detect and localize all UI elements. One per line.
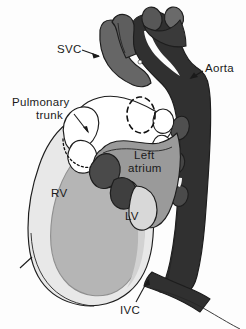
label-lv: LV — [125, 210, 139, 222]
label-left-atrium-line1: Left — [134, 149, 155, 161]
label-pulmonary-trunk-line2: trunk — [36, 109, 63, 121]
label-rv: RV — [51, 187, 67, 199]
heart-anatomy-figure: SVC Aorta Pulmonary trunk Left atrium RV… — [0, 0, 246, 329]
label-pulmonary-trunk-line1: Pulmonary — [12, 96, 70, 108]
label-aorta: Aorta — [205, 62, 234, 74]
heart-illustration-canvas: SVC Aorta Pulmonary trunk Left atrium RV… — [0, 0, 246, 329]
label-svc: SVC — [57, 43, 82, 55]
aortic-root-lobe — [153, 109, 174, 133]
label-left-atrium-line2: atrium — [128, 162, 162, 174]
svc-junction-highlight-dot — [138, 60, 142, 64]
label-ivc: IVC — [120, 304, 140, 316]
